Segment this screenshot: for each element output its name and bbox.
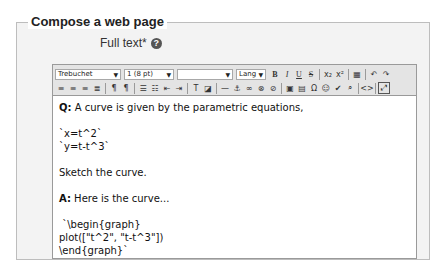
ltr-icon[interactable]: ¶ — [108, 82, 120, 94]
toolbar-divider — [281, 83, 282, 94]
font-family-value: Trebuchet — [58, 70, 93, 78]
graph-plot-line: plot(["t^2", "t-t^3"]) — [59, 231, 412, 244]
link-icon[interactable]: ∞ — [243, 82, 255, 94]
image-icon[interactable]: ▣ — [284, 82, 296, 94]
html-source-icon[interactable]: <> — [361, 82, 373, 94]
editor-content[interactable]: Q: A curve is given by the parametric eq… — [59, 101, 412, 257]
toolbar-divider — [365, 69, 366, 80]
full-text-label: Full text* — [100, 36, 147, 50]
align-left-icon[interactable]: ≡ — [55, 82, 67, 94]
undo-button[interactable]: ↶ — [368, 68, 380, 80]
rtl-icon[interactable]: ¶ — [120, 82, 132, 94]
toolbar-row-2: ≡ ≡ ≡ ≣ ¶ ¶ ☰ ☷ ⇤ ⇥ T ◪ — ⚓ ∞ ⊗ ⊘ ▣ ▤ Ω … — [55, 81, 390, 95]
blank-line — [59, 153, 412, 166]
subscript-button[interactable]: x₂ — [322, 68, 334, 80]
font-size-select[interactable]: 1 (8 pt) ▼ — [124, 69, 174, 80]
help-icon[interactable]: ? — [151, 38, 162, 49]
heading-select[interactable]: ▼ — [177, 69, 233, 80]
full-text-label-row: Full text* ? — [100, 36, 162, 50]
background-color-icon[interactable]: ◪ — [202, 82, 214, 94]
symbol-icon[interactable]: Ω — [308, 82, 320, 94]
toolbar-divider — [319, 69, 320, 80]
toolbar-row-1: Trebuchet ▼ 1 (8 pt) ▼ ▼ Lang ▼ B I U S … — [55, 67, 392, 81]
answer-line: A: Here is the curve... — [59, 192, 412, 205]
font-family-select[interactable]: Trebuchet ▼ — [55, 69, 121, 80]
toolbar-divider — [105, 83, 106, 94]
graph-end-line: \end{graph}` — [59, 244, 412, 257]
unordered-list-icon[interactable]: ☷ — [149, 82, 161, 94]
toolbar-divider — [348, 69, 349, 80]
ordered-list-icon[interactable]: ☰ — [137, 82, 149, 94]
unlink-icon[interactable]: ⊗ — [255, 82, 267, 94]
rich-text-editor: Trebuchet ▼ 1 (8 pt) ▼ ▼ Lang ▼ B I U S … — [52, 64, 417, 259]
indent-icon[interactable]: ⇥ — [173, 82, 185, 94]
chevron-down-icon: ▼ — [225, 71, 230, 78]
superscript-button[interactable]: x² — [334, 68, 346, 80]
fullscreen-icon[interactable]: ⤢ — [378, 82, 390, 94]
strikethrough-button[interactable]: S — [305, 68, 317, 80]
align-right-icon[interactable]: ≡ — [79, 82, 91, 94]
clean-html-button[interactable]: ▦ — [351, 68, 363, 80]
question-prefix: Q: — [59, 102, 72, 113]
toolbar-divider — [134, 83, 135, 94]
nolink-icon[interactable]: ⊘ — [267, 82, 279, 94]
justify-icon[interactable]: ≣ — [91, 82, 103, 94]
blank-line — [59, 205, 412, 218]
underline-button[interactable]: U — [293, 68, 305, 80]
search-replace-icon[interactable]: ⌕ — [344, 82, 356, 94]
redo-button[interactable]: ↷ — [380, 68, 392, 80]
italic-button[interactable]: I — [281, 68, 293, 80]
equation-y: `y=t-t^3` — [59, 140, 412, 153]
equation-x: `x=t^2` — [59, 127, 412, 140]
answer-prefix: A: — [59, 193, 71, 204]
instruction-line: Sketch the curve. — [59, 166, 412, 179]
font-size-value: 1 (8 pt) — [127, 70, 153, 78]
align-center-icon[interactable]: ≡ — [67, 82, 79, 94]
text-color-icon[interactable]: T — [190, 82, 202, 94]
toolbar-divider — [358, 83, 359, 94]
toolbar-divider — [375, 83, 376, 94]
blank-line — [59, 114, 412, 127]
toolbar-divider — [187, 83, 188, 94]
editor-toolbar: Trebuchet ▼ 1 (8 pt) ▼ ▼ Lang ▼ B I U S … — [53, 65, 416, 96]
chevron-down-icon: ▼ — [258, 71, 263, 78]
blank-line — [59, 179, 412, 192]
outdent-icon[interactable]: ⇤ — [161, 82, 173, 94]
bold-button[interactable]: B — [269, 68, 281, 80]
graph-begin-line: `\begin{graph} — [59, 218, 412, 231]
smiley-icon[interactable]: ☺ — [320, 82, 332, 94]
lang-select[interactable]: Lang ▼ — [236, 69, 266, 80]
chevron-down-icon: ▼ — [166, 71, 171, 78]
anchor-icon[interactable]: ⚓ — [231, 82, 243, 94]
horizontal-rule-icon[interactable]: — — [219, 82, 231, 94]
chevron-down-icon: ▼ — [113, 71, 118, 78]
fieldset-legend: Compose a web page — [28, 15, 167, 29]
question-line: Q: A curve is given by the parametric eq… — [59, 101, 412, 114]
spellcheck-icon[interactable]: ✔ — [332, 82, 344, 94]
table-icon[interactable]: ▤ — [296, 82, 308, 94]
toolbar-divider — [216, 83, 217, 94]
lang-value: Lang — [239, 70, 256, 78]
